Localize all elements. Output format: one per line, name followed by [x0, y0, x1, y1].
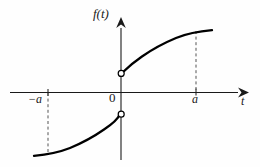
y-axis: [116, 17, 126, 160]
x-tick-label-neg-a: −a: [28, 93, 42, 105]
x-tick-label-a: a: [192, 93, 198, 105]
curve-upper-branch: [123, 30, 213, 72]
open-circle-lower: [118, 111, 124, 117]
y-axis-arrowhead: [116, 17, 126, 28]
y-axis-label: f(t): [93, 7, 109, 20]
open-circle-upper: [118, 70, 124, 76]
function-plot-figure: f(t) −a 0 a t: [0, 0, 260, 167]
origin-label: 0: [109, 91, 116, 104]
x-axis-label: t: [241, 95, 244, 107]
curve-lower-branch: [34, 115, 120, 156]
x-axis: [10, 88, 249, 98]
plot-canvas: [0, 0, 260, 167]
